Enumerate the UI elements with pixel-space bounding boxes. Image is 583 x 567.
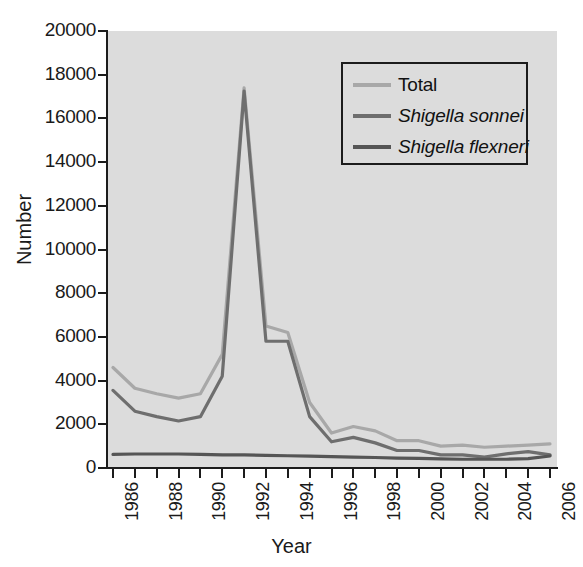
x-tick-mark: [309, 469, 311, 478]
y-tick-mark: [98, 292, 106, 294]
y-tick-mark: [98, 30, 106, 32]
x-tick-label: 1990: [209, 482, 230, 521]
x-tick-label: 2006: [559, 482, 580, 521]
x-tick-mark: [505, 469, 507, 478]
x-tick-mark: [178, 469, 180, 478]
legend-box: TotalShigella sonneiShigella flexneri: [341, 62, 528, 165]
y-tick-mark: [98, 467, 106, 469]
y-tick-label: 0: [0, 456, 96, 478]
y-tick-mark: [98, 117, 106, 119]
y-axis-title: Number: [13, 180, 36, 280]
legend-item: Total: [343, 69, 526, 100]
x-axis-title: Year: [0, 535, 583, 558]
x-tick-mark: [221, 469, 223, 478]
chart-figure: 0200040006000800010000120001400016000180…: [0, 0, 583, 567]
y-tick-mark: [98, 249, 106, 251]
x-tick-label: 1994: [297, 482, 318, 521]
legend-line-swatch: [353, 114, 391, 118]
x-tick-mark: [199, 469, 201, 478]
legend-item-label: Shigella flexneri: [398, 136, 529, 158]
x-tick-mark: [265, 469, 267, 478]
x-tick-mark: [331, 469, 333, 478]
legend-line-swatch: [353, 83, 391, 87]
legend-item-label: Total: [398, 74, 437, 96]
y-tick-label: 20000: [0, 19, 96, 41]
x-tick-label: 2000: [428, 482, 449, 521]
x-tick-label: 1996: [341, 482, 362, 521]
y-tick-label: 16000: [0, 106, 96, 128]
y-axis-line: [106, 30, 108, 469]
x-tick-label: 1988: [166, 482, 187, 521]
y-tick-mark: [98, 336, 106, 338]
x-tick-mark: [440, 469, 442, 478]
x-tick-label: 1998: [384, 482, 405, 521]
x-tick-mark: [549, 469, 551, 478]
x-tick-label: 2004: [515, 482, 536, 521]
x-tick-mark: [418, 469, 420, 478]
legend-line-swatch: [353, 145, 391, 149]
x-tick-mark: [527, 469, 529, 478]
x-tick-mark: [396, 469, 398, 478]
y-tick-label: 18000: [0, 63, 96, 85]
legend-item: Shigella flexneri: [343, 131, 526, 162]
x-tick-label: 1992: [253, 482, 274, 521]
x-tick-mark: [156, 469, 158, 478]
y-tick-label: 2000: [0, 412, 96, 434]
x-tick-mark: [374, 469, 376, 478]
y-tick-mark: [98, 74, 106, 76]
legend-item-label: Shigella sonnei: [398, 105, 524, 127]
x-tick-mark: [483, 469, 485, 478]
y-tick-label: 14000: [0, 150, 96, 172]
legend-item: Shigella sonnei: [343, 100, 526, 131]
x-tick-label: 2002: [472, 482, 493, 521]
x-tick-mark: [462, 469, 464, 478]
y-tick-mark: [98, 380, 106, 382]
x-tick-mark: [287, 469, 289, 478]
x-tick-mark: [134, 469, 136, 478]
x-tick-mark: [243, 469, 245, 478]
y-tick-label: 8000: [0, 281, 96, 303]
y-tick-mark: [98, 205, 106, 207]
y-tick-label: 6000: [0, 325, 96, 347]
y-tick-label: 4000: [0, 369, 96, 391]
x-tick-label: 1986: [122, 482, 143, 521]
x-tick-mark: [112, 469, 114, 478]
y-tick-mark: [98, 161, 106, 163]
y-tick-mark: [98, 423, 106, 425]
x-tick-mark: [352, 469, 354, 478]
